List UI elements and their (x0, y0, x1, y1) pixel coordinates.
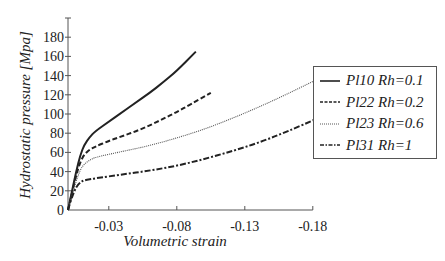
dashdot-line-swatch-icon (320, 142, 340, 148)
legend-label: Pl23 Rh=0.6 (346, 115, 424, 132)
series-line-dashdot (68, 117, 321, 210)
axes: 020406080100120140160180-0.03-0.08-0.13-… (43, 18, 327, 234)
y-tick-label: 60 (50, 145, 64, 160)
series-group (68, 52, 321, 210)
y-tick-label: 100 (43, 107, 64, 122)
x-tick-label: -0.13 (230, 219, 259, 234)
legend-item: Pl31 Rh=1 (320, 135, 436, 157)
legend: Pl10 Rh=0.1 Pl22 Rh=0.2 Pl23 Rh=0.6 Pl31… (313, 66, 437, 159)
dotted-line-swatch-icon (320, 121, 340, 127)
x-tick-label: -0.08 (162, 219, 191, 234)
y-tick-label: 40 (50, 165, 64, 180)
series-line-solid (68, 52, 196, 210)
y-tick-label: 160 (43, 49, 64, 64)
x-tick-label: -0.03 (94, 219, 123, 234)
solid-line-swatch-icon (320, 78, 340, 84)
x-tick-label: -0.18 (298, 219, 327, 234)
y-tick-label: 80 (50, 126, 64, 141)
legend-label: Pl22 Rh=0.2 (346, 94, 424, 111)
legend-item: Pl23 Rh=0.6 (320, 113, 436, 135)
legend-item: Pl22 Rh=0.2 (320, 92, 436, 114)
series-line-dashed (68, 93, 211, 210)
x-axis-title: Volumetric strain (123, 233, 227, 249)
y-tick-label: 20 (50, 184, 64, 199)
y-axis-title: Hydrostatic pressure [Mpa] (17, 31, 33, 200)
y-tick-label: 120 (43, 88, 64, 103)
dashed-line-swatch-icon (320, 99, 340, 105)
legend-label: Pl10 Rh=0.1 (346, 72, 424, 89)
y-tick-label: 140 (43, 69, 64, 84)
y-tick-label: 0 (57, 203, 64, 218)
series-line-dotted (68, 78, 321, 210)
y-tick-label: 180 (43, 30, 64, 45)
legend-item: Pl10 Rh=0.1 (320, 70, 436, 92)
legend-label: Pl31 Rh=1 (346, 137, 412, 154)
